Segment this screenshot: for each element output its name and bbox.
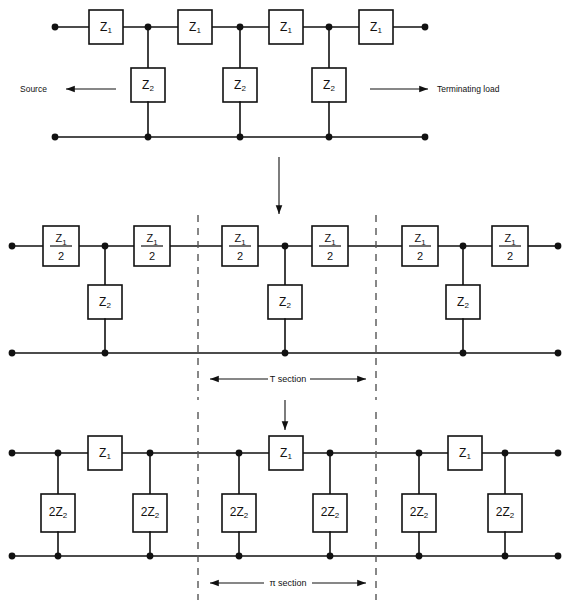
junction-dot [326, 24, 333, 31]
series-impedance-z1: Z1 [89, 10, 123, 44]
output-terminal-dot [422, 134, 429, 141]
series-impedance-z1-half: Z1 2 [222, 226, 258, 266]
t-section-row: Z1 2 Z1 2 Z1 2 Z1 2 [9, 215, 562, 400]
shunt-impedance-z2: Z2 [223, 27, 257, 137]
junction-dot [147, 450, 154, 457]
junction-dot [282, 243, 289, 250]
ladder-network-row: Z1 Z1 Z1 Z1 Z2 [20, 10, 500, 140]
junction-dot [55, 450, 62, 457]
junction-dot [102, 243, 109, 250]
shunt-impedance-2z2: 2Z2 [222, 453, 256, 556]
output-terminal-dot [555, 450, 562, 457]
shunt-impedance-2z2: 2Z2 [133, 453, 167, 556]
junction-dot [416, 450, 423, 457]
circuit-diagram-figure: Z1 Z1 Z1 Z1 Z2 [0, 0, 571, 603]
series-impedance-z1-half: Z1 2 [134, 226, 170, 266]
input-terminal-dot [9, 350, 16, 357]
shunt-impedance-z2: Z2 [312, 27, 346, 137]
input-terminal-dot [9, 243, 16, 250]
pi-section-label: π section [269, 578, 306, 588]
fraction-denominator: 2 [417, 250, 423, 262]
series-impedance-z1: Z1 [448, 436, 482, 470]
series-impedance-z1: Z1 [178, 10, 212, 44]
junction-dot [460, 243, 467, 250]
junction-dot [147, 553, 154, 560]
source-label: Source [20, 84, 47, 94]
shunt-impedance-z2: Z2 [268, 246, 302, 353]
shunt-impedance-2z2: 2Z2 [313, 453, 347, 556]
load-annotation: Terminating load [370, 84, 500, 94]
series-impedance-z1-half: Z1 2 [402, 226, 438, 266]
fraction-denominator: 2 [327, 250, 333, 262]
shunt-impedance-2z2: 2Z2 [488, 453, 522, 556]
junction-dot [237, 24, 244, 31]
input-terminal-dot [52, 24, 59, 31]
series-impedance-z1: Z1 [269, 10, 303, 44]
junction-dot [326, 134, 333, 141]
fraction-denominator: 2 [237, 250, 243, 262]
shunt-impedance-z2: Z2 [131, 27, 165, 137]
output-terminal-dot [422, 24, 429, 31]
output-terminal-dot [555, 350, 562, 357]
junction-dot [327, 450, 334, 457]
t-section-label: T section [270, 374, 306, 384]
junction-dot [327, 553, 334, 560]
junction-dot [416, 553, 423, 560]
shunt-impedance-2z2: 2Z2 [41, 453, 75, 556]
source-annotation: Source [20, 84, 116, 94]
series-impedance-z1: Z1 [269, 436, 303, 470]
junction-dot [502, 553, 509, 560]
junction-dot [502, 450, 509, 457]
series-impedance-z1: Z1 [359, 10, 393, 44]
series-impedance-z1: Z1 [88, 436, 122, 470]
series-impedance-z1-half: Z1 2 [492, 226, 528, 266]
junction-dot [236, 450, 243, 457]
junction-dot [237, 134, 244, 141]
junction-dot [55, 553, 62, 560]
series-impedance-z1-half: Z1 2 [312, 226, 348, 266]
pi-section-measure: π section [210, 578, 366, 588]
input-terminal-dot [52, 134, 59, 141]
shunt-impedance-z2: Z2 [446, 246, 480, 353]
input-terminal-dot [9, 553, 16, 560]
input-terminal-dot [9, 450, 16, 457]
load-label: Terminating load [437, 84, 500, 94]
shunt-impedance-z2: Z2 [88, 246, 122, 353]
junction-dot [145, 24, 152, 31]
shunt-impedance-2z2: 2Z2 [402, 453, 436, 556]
output-terminal-dot [555, 553, 562, 560]
output-terminal-dot [555, 243, 562, 250]
fraction-denominator: 2 [507, 250, 513, 262]
pi-section-row: Z1 Z1 Z1 2Z2 2Z2 [9, 412, 562, 600]
fraction-denominator: 2 [58, 250, 64, 262]
junction-dot [282, 350, 289, 357]
t-section-measure: T section [210, 374, 366, 384]
circuit-svg-canvas: Z1 Z1 Z1 Z1 Z2 [0, 0, 571, 603]
junction-dot [102, 350, 109, 357]
junction-dot [145, 134, 152, 141]
fraction-denominator: 2 [149, 250, 155, 262]
junction-dot [460, 350, 467, 357]
junction-dot [236, 553, 243, 560]
series-impedance-z1-half: Z1 2 [43, 226, 79, 266]
